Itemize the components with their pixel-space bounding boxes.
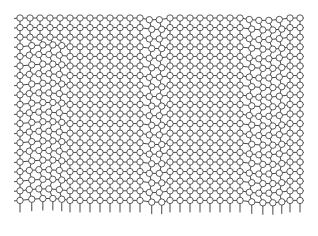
lattice-node <box>67 159 73 165</box>
lattice-node <box>167 140 173 146</box>
lattice-node <box>127 101 133 107</box>
lattice-node <box>297 72 303 78</box>
lattice-node <box>279 64 285 70</box>
lattice-node <box>17 120 23 126</box>
lattice-node <box>29 138 35 144</box>
lattice-node <box>127 178 133 184</box>
lattice-node <box>197 44 203 50</box>
lattice-node <box>50 61 56 67</box>
lattice-node <box>217 82 223 88</box>
lattice-node <box>187 168 193 174</box>
lattice-node <box>17 63 23 69</box>
lattice-node <box>237 101 243 107</box>
lattice-node <box>97 178 103 184</box>
lattice-node <box>77 72 83 78</box>
lattice-node <box>26 129 32 135</box>
lattice-node <box>197 120 203 126</box>
lattice-node <box>107 120 113 126</box>
lattice-node <box>36 166 42 172</box>
lattice-node <box>159 161 165 167</box>
lattice-node <box>97 53 103 59</box>
lattice-node <box>167 120 173 126</box>
lattice-node <box>197 24 203 30</box>
lattice-node <box>149 180 155 186</box>
lattice-node <box>67 34 73 40</box>
lattice-node <box>87 188 93 194</box>
lattice-node <box>217 63 223 69</box>
lattice-node <box>207 82 213 88</box>
lattice-node <box>237 197 243 203</box>
lattice-node <box>47 34 53 40</box>
lattice-node <box>227 111 233 117</box>
lattice-node <box>276 16 282 22</box>
lattice-node <box>279 103 285 109</box>
lattice-node <box>107 15 113 21</box>
lattice-node <box>266 17 272 23</box>
lattice-node <box>217 168 223 174</box>
lattice-node <box>227 44 233 50</box>
lattice-node <box>67 53 73 59</box>
lattice-node <box>117 82 123 88</box>
lattice-node <box>287 53 293 59</box>
lattice-node <box>207 197 213 203</box>
lattice-node <box>117 197 123 203</box>
lattice-node <box>287 72 293 78</box>
lattice-node <box>197 72 203 78</box>
lattice-node <box>187 63 193 69</box>
lattice-node <box>146 113 152 119</box>
lattice-node <box>167 188 173 194</box>
lattice-node <box>117 34 123 40</box>
lattice-node <box>207 53 213 59</box>
lattice-node <box>287 111 293 117</box>
lattice-node <box>187 24 193 30</box>
lattice-node <box>149 26 155 32</box>
lattice-node <box>77 197 83 203</box>
lattice-node <box>197 130 203 136</box>
lattice-node <box>270 27 276 33</box>
lattice-node <box>297 149 303 155</box>
lattice-node <box>77 120 83 126</box>
lattice-node <box>59 119 65 125</box>
lattice-node <box>67 188 73 194</box>
lattice-node <box>167 63 173 69</box>
lattice-node <box>227 63 233 69</box>
lattice-node <box>266 152 272 158</box>
lattice-node <box>287 24 293 30</box>
lattice-node <box>17 15 23 21</box>
lattice-node <box>167 159 173 165</box>
lattice-node <box>107 140 113 146</box>
lattice-node <box>297 130 303 136</box>
lattice-node <box>50 80 56 86</box>
lattice-node <box>17 72 23 78</box>
lattice-node <box>197 15 203 21</box>
lattice-node <box>249 83 255 89</box>
lattice-node <box>156 189 162 195</box>
lattice-node <box>29 81 35 87</box>
lattice-node <box>167 101 173 107</box>
lattice-node <box>107 178 113 184</box>
lattice-node <box>127 82 133 88</box>
lattice-node <box>237 168 243 174</box>
lattice-node <box>249 179 255 185</box>
lattice-node <box>137 44 143 50</box>
lattice-node <box>46 147 52 153</box>
lattice-node <box>197 168 203 174</box>
lattice-node <box>57 24 63 30</box>
lattice-node <box>156 55 162 61</box>
lattice-node <box>67 149 73 155</box>
lattice-node <box>87 101 93 107</box>
lattice-node <box>237 120 243 126</box>
lattice-node <box>256 152 262 158</box>
lattice-node <box>97 140 103 146</box>
lattice-node <box>207 130 213 136</box>
lattice-node <box>249 141 255 147</box>
lattice-node <box>137 101 143 107</box>
lattice-node <box>127 53 133 59</box>
lattice-node <box>87 159 93 165</box>
lattice-node <box>29 177 35 183</box>
lattice-node <box>77 82 83 88</box>
lattice-node <box>77 178 83 184</box>
lattice-node <box>57 34 63 40</box>
lattice-node <box>87 63 93 69</box>
lattice-node <box>156 113 162 119</box>
